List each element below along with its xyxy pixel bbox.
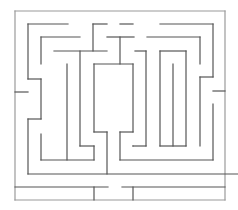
maze-walls bbox=[15, 24, 238, 200]
maze bbox=[0, 0, 238, 210]
